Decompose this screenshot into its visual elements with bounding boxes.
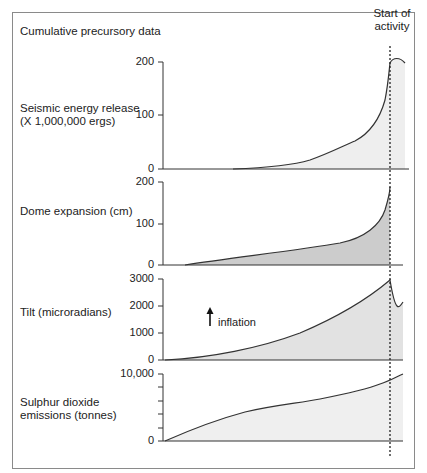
chart-svg (0, 0, 427, 473)
dome-area (185, 187, 390, 265)
dome-panel (158, 182, 403, 265)
seismic-area (233, 59, 405, 170)
tilt-area (165, 280, 403, 360)
so2-panel (158, 374, 403, 441)
so2-area (165, 374, 403, 441)
tilt-panel (158, 279, 403, 360)
seismic-panel (158, 59, 409, 170)
inflation-arrow-icon (207, 307, 214, 326)
